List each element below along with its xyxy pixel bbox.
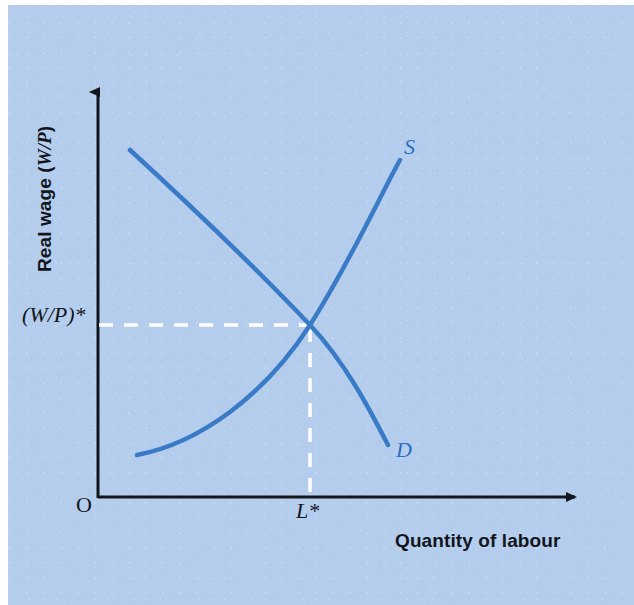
equilibrium-wage-label: (W/P)* <box>22 302 86 328</box>
supply-curve <box>137 160 400 455</box>
demand-curve <box>130 150 388 445</box>
y-axis-title-prefix: Real wage ( <box>34 166 55 272</box>
origin-label: O <box>76 492 92 518</box>
equilibrium-quantity-label: L* <box>296 498 319 524</box>
x-axis-title: Quantity of labour <box>395 530 560 552</box>
demand-curve-label: D <box>396 437 412 463</box>
figure-container: Real wage (W/P) Quantity of labour O (W/… <box>0 0 634 605</box>
y-axis-title-math: W/P <box>34 132 55 166</box>
y-axis-title: Real wage (W/P) <box>28 72 68 272</box>
supply-curve-label: S <box>404 134 415 160</box>
y-axis-title-suffix: ) <box>34 126 55 132</box>
